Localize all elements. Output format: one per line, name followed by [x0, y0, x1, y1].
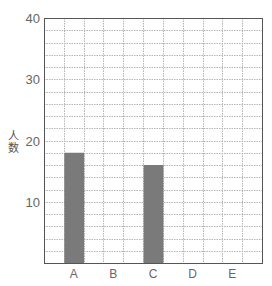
x-category-label: A [70, 267, 78, 281]
bar-chart: 10203040ABCDE [0, 0, 272, 286]
x-category-label: D [188, 267, 197, 281]
y-axis-label: 人 数 [6, 131, 20, 155]
bar-a [64, 153, 84, 263]
y-tick-label: 40 [26, 11, 40, 26]
y-tick-label: 10 [26, 195, 40, 210]
y-tick-label: 30 [26, 72, 40, 87]
x-category-label: C [149, 267, 158, 281]
x-category-label: B [109, 267, 117, 281]
y-tick-label: 20 [26, 134, 40, 149]
y-axis-label-char: 数 [6, 143, 20, 155]
x-category-label: E [228, 267, 236, 281]
bar-c [144, 165, 164, 263]
